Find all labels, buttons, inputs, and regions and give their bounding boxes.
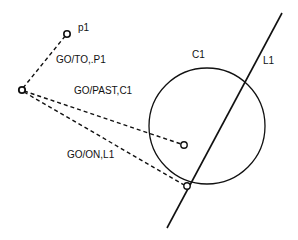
motion-diagram: p1 GO/TO,.P1 GO/PAST,C1 GO/ON,L1 C1 L1 <box>0 0 298 240</box>
point-c1-tangent <box>181 142 187 148</box>
point-l1-on <box>184 183 190 189</box>
label-go-past: GO/PAST,C1 <box>74 85 133 96</box>
label-c1: C1 <box>192 49 205 60</box>
circle-c1 <box>149 68 265 184</box>
start-point <box>19 87 25 93</box>
path-go-past <box>24 91 181 144</box>
label-go-to: GO/TO,.P1 <box>56 54 106 65</box>
path-go-on <box>24 92 184 185</box>
label-go-on: GO/ON,L1 <box>67 149 115 160</box>
point-p1 <box>64 31 70 37</box>
label-p1: p1 <box>78 22 90 33</box>
label-l1: L1 <box>263 55 275 66</box>
